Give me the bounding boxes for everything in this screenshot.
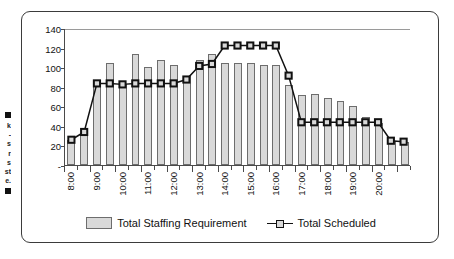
x-axis-label: 11:00 <box>142 172 153 195</box>
x-axis-tick-mark <box>384 166 385 170</box>
edge-line: s <box>0 158 11 167</box>
y-axis-tick-label: 60 <box>50 102 61 113</box>
x-axis-label: 16:00 <box>270 172 281 196</box>
x-axis-tick-mark <box>77 166 78 170</box>
edge-line: k <box>0 121 11 130</box>
x-axis-tick-mark <box>282 166 283 170</box>
x-axis-tick-mark <box>410 166 411 170</box>
x-axis-label: 20:00 <box>373 172 384 196</box>
edge-line: s <box>0 139 11 148</box>
line-marker <box>298 119 304 125</box>
line-marker <box>362 119 368 125</box>
line-marker <box>209 61 215 67</box>
line-marker <box>183 76 189 82</box>
chart-legend: Total Staffing Requirement Total Schedul… <box>22 217 440 229</box>
line-marker <box>273 42 279 48</box>
line-marker <box>337 119 343 125</box>
line-marker <box>196 63 202 69</box>
y-axis-tick-label: 40 <box>50 121 61 132</box>
x-axis-tick-mark <box>333 166 334 170</box>
x-axis-label: 9:00 <box>91 172 102 191</box>
x-axis-label: 13:00 <box>194 172 205 196</box>
y-axis-tick-label: 80 <box>50 82 61 93</box>
x-axis-tick-mark <box>231 166 232 170</box>
x-axis-label: 10:00 <box>117 172 128 196</box>
edge-line: - <box>0 130 11 139</box>
x-axis-label: 8:00 <box>65 172 76 191</box>
line-marker <box>260 42 266 48</box>
x-axis-tick-mark <box>102 166 103 170</box>
line-marker <box>94 80 100 86</box>
legend-entry-total-staffing-requirement: Total Staffing Requirement <box>86 217 246 229</box>
x-axis-tick-mark <box>128 166 129 170</box>
legend-label: Total Staffing Requirement <box>117 217 246 229</box>
x-axis-tick-mark <box>307 166 308 170</box>
line-series-total-scheduled <box>65 29 410 165</box>
page-edge-text-sliver: k - s r s st e. <box>0 112 11 244</box>
square-bullet-icon <box>5 112 11 118</box>
y-axis-tick-label: 20 <box>50 141 61 152</box>
x-axis-tick-mark <box>154 166 155 170</box>
line-marker <box>107 80 113 86</box>
edge-line: st <box>0 167 11 176</box>
line-marker <box>81 129 87 135</box>
line-marker <box>68 137 74 143</box>
line-marker <box>324 119 330 125</box>
line-marker <box>247 42 253 48</box>
legend-entry-total-scheduled: Total Scheduled <box>267 217 376 229</box>
x-axis-label: 18:00 <box>322 172 333 196</box>
line-marker <box>158 80 164 86</box>
x-axis-label: 17:00 <box>296 172 307 196</box>
line-marker <box>132 80 138 86</box>
x-axis-label: 15:00 <box>245 172 256 196</box>
line-marker <box>388 138 394 144</box>
line-marker-icon <box>267 218 293 228</box>
y-axis-tick-label: 140 <box>45 24 61 35</box>
line-marker <box>401 139 407 145</box>
x-axis-tick-mark <box>179 166 180 170</box>
line-marker <box>311 119 317 125</box>
line-marker <box>349 119 355 125</box>
legend-label: Total Scheduled <box>298 217 376 229</box>
figure-frame: -20406080100120140 8:009:0010:0011:0012:… <box>21 11 439 243</box>
bar-swatch-icon <box>86 217 112 229</box>
line-path <box>71 46 403 142</box>
x-axis-label: 19:00 <box>347 172 358 196</box>
line-marker <box>375 119 381 125</box>
plot-area: -20406080100120140 <box>64 29 410 166</box>
x-axis-label: 14:00 <box>219 172 230 196</box>
square-bullet-icon <box>5 188 11 194</box>
line-marker <box>286 73 292 79</box>
y-axis-tick-label: 120 <box>45 43 61 54</box>
edge-line: e. <box>0 176 11 185</box>
x-axis-tick-mark <box>256 166 257 170</box>
line-marker <box>171 80 177 86</box>
x-axis-tick-mark <box>359 166 360 170</box>
x-axis-labels: 8:009:0010:0011:0012:0013:0014:0015:0016… <box>64 172 410 216</box>
line-marker <box>222 42 228 48</box>
x-axis-label: 12:00 <box>168 172 179 196</box>
line-marker <box>145 80 151 86</box>
staffing-chart: -20406080100120140 8:009:0010:0011:0012:… <box>22 12 440 244</box>
edge-line: r <box>0 149 11 158</box>
line-marker <box>234 42 240 48</box>
x-axis-tick-mark <box>205 166 206 170</box>
line-marker <box>119 81 125 87</box>
y-axis-tick-label: 100 <box>45 63 61 74</box>
